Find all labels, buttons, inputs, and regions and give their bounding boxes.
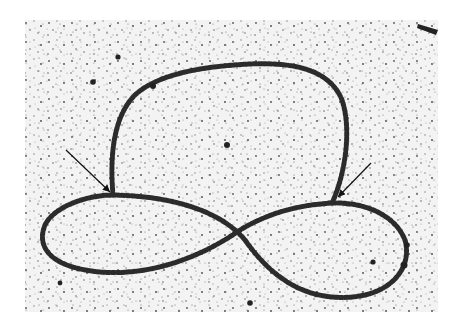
micrograph: [0, 0, 464, 336]
